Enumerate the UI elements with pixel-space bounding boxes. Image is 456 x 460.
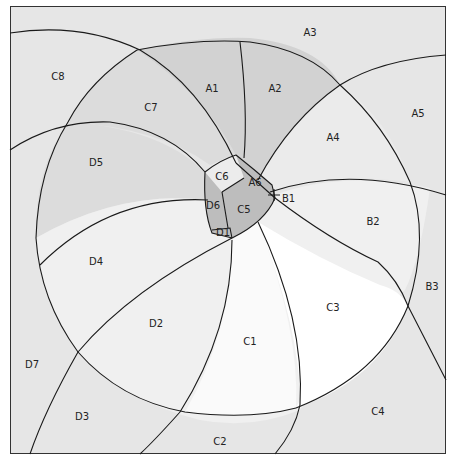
label-C6: C6: [215, 171, 228, 182]
label-A2: A2: [268, 83, 281, 94]
label-C1: C1: [243, 336, 256, 347]
label-C4: C4: [371, 406, 384, 417]
label-D6: D6: [206, 200, 220, 211]
label-C2: C2: [213, 436, 226, 447]
label-B1: B1: [282, 193, 295, 204]
label-C3: C3: [326, 302, 339, 313]
label-A4: A4: [326, 132, 339, 143]
label-C8: C8: [51, 71, 64, 82]
label-B2: B2: [366, 216, 379, 227]
label-D1: D1: [216, 227, 230, 238]
label-D2: D2: [149, 318, 163, 329]
label-A3: A3: [303, 27, 316, 38]
label-C7: C7: [144, 102, 157, 113]
label-C5: C5: [237, 204, 250, 215]
region-diagram: A1 A2 A3 A4 A5 A6 B1 B2 B3 C1 C2 C3 C4 C…: [0, 0, 456, 460]
label-A5: A5: [411, 108, 424, 119]
label-B3: B3: [425, 281, 438, 292]
label-A6: A6: [248, 177, 261, 188]
label-A1: A1: [205, 83, 218, 94]
label-D4: D4: [89, 256, 103, 267]
label-D3: D3: [75, 411, 89, 422]
label-D5: D5: [89, 157, 103, 168]
label-D7: D7: [25, 359, 39, 370]
